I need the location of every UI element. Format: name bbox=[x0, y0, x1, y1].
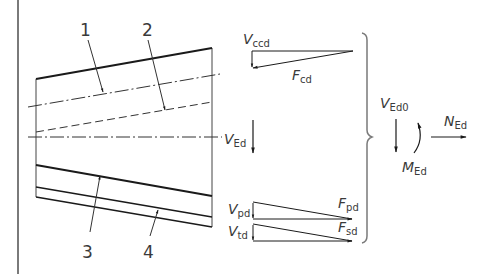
med-moment-arrow bbox=[414, 123, 420, 153]
callout-4: 4 bbox=[143, 242, 154, 262]
label-vtd: Vtd bbox=[228, 223, 248, 241]
compression-strut-line-2 bbox=[36, 102, 212, 132]
top-chord bbox=[36, 48, 212, 79]
callout-2: 2 bbox=[142, 20, 153, 40]
label-ved: VEd bbox=[224, 131, 246, 149]
compression-chord-force-triangle bbox=[252, 51, 353, 68]
leader-1 bbox=[88, 40, 103, 92]
label-ned: NEd bbox=[444, 113, 467, 131]
tapered-beam bbox=[28, 48, 222, 227]
fcd-arrow bbox=[253, 51, 353, 68]
label-med: MEd bbox=[402, 159, 427, 177]
curly-brace bbox=[362, 33, 372, 243]
label-fpd: Fpd bbox=[338, 195, 359, 213]
callout-3: 3 bbox=[82, 242, 93, 262]
force-diagram: 1 2 3 4 Vccd Fcd VEd Vpd Vtd Fpd Fsd VEd… bbox=[0, 0, 486, 274]
label-fcd: Fcd bbox=[292, 67, 312, 85]
leader-3 bbox=[90, 176, 100, 232]
callout-1: 1 bbox=[80, 20, 91, 40]
label-vccd: Vccd bbox=[243, 31, 270, 49]
label-vpd: Vpd bbox=[228, 201, 250, 219]
leader-2 bbox=[148, 40, 165, 110]
leader-4 bbox=[150, 210, 158, 236]
chord-centroid-line-1 bbox=[28, 74, 220, 107]
label-fsd: Fsd bbox=[338, 219, 358, 237]
label-ved0: VEd0 bbox=[380, 95, 409, 113]
